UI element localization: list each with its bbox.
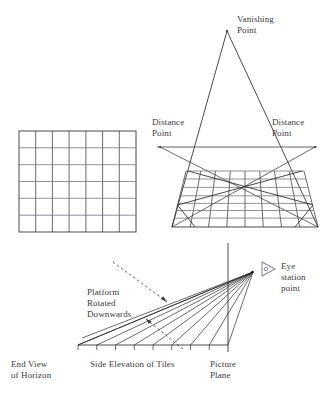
label-distance-point-right: Distance Point — [272, 117, 304, 139]
distance-ray-left — [160, 147, 318, 227]
vanishing-point-dot — [226, 30, 228, 32]
label-platform-rotated-downwards: Platform Rotated Downwards — [87, 287, 131, 320]
distance-point-right-dot — [314, 146, 316, 148]
label-distance-point-left: Distance Point — [152, 117, 184, 139]
distance-point-left-dot — [159, 146, 161, 148]
label-side-elevation-of-tiles: Side Elevation of Tiles — [90, 359, 175, 370]
eye-station-arrow-marker — [262, 262, 275, 276]
grid-diagonal-a — [178, 171, 303, 205]
eye-station-point-dot — [251, 271, 254, 274]
diagram-canvas: .ln { stroke: #2b2b2b; stroke-width: 0.8… — [0, 0, 328, 399]
label-end-view-of-horizon: End View of Horizon — [11, 359, 51, 381]
platform-rotation-arrowhead — [161, 296, 167, 302]
label-eye-station-point: Eye station point — [281, 261, 306, 294]
perspective-construction-figure: .ln { stroke: #2b2b2b; stroke-width: 0.8… — [0, 0, 328, 399]
plan-view-tile-grid — [19, 131, 136, 232]
label-picture-plane: Picture Plane — [210, 359, 236, 381]
label-vanishing-point: Vanishing Point — [237, 14, 274, 36]
horizon-line-group — [157, 146, 318, 227]
